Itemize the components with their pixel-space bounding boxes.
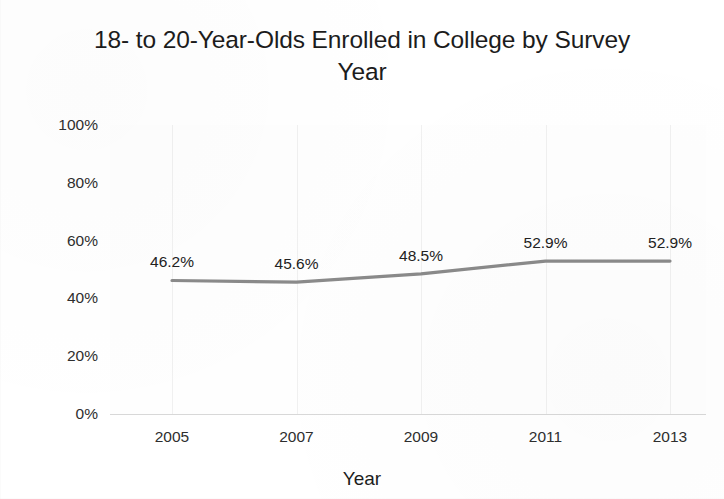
- line-chart: 18- to 20-Year-Olds Enrolled in College …: [0, 0, 724, 499]
- x-axis-title: Year: [0, 468, 724, 490]
- series-line-svg: [0, 0, 724, 499]
- series-polyline: [172, 261, 670, 282]
